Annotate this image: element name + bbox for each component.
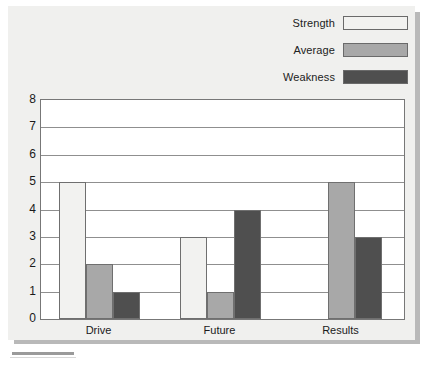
bar-future-weakness [234, 210, 261, 320]
legend-label-weakness: Weakness [283, 71, 335, 83]
x-axis-tick-label: Drive [86, 324, 112, 336]
bar-drive-average [86, 264, 113, 319]
legend-label-average: Average [294, 44, 335, 56]
chart-figure: Strength Average Weakness 012345678 Driv… [0, 0, 433, 366]
footer-rule [12, 352, 74, 355]
y-axis-tick-label: 6 [29, 147, 36, 161]
legend-item-strength: Strength [258, 14, 408, 31]
bar-future-average [207, 292, 234, 319]
gridline [41, 127, 404, 128]
legend-swatch-strength [343, 16, 408, 30]
y-axis-tick-label: 8 [29, 92, 36, 106]
legend-item-average: Average [258, 41, 408, 58]
panel-shadow-right [415, 12, 420, 342]
x-axis-tick-labels: DriveFutureResults [40, 324, 405, 342]
bar-future-strength [180, 237, 207, 319]
legend-swatch-average [343, 43, 408, 57]
bar-drive-strength [59, 182, 86, 319]
x-axis-tick-label: Future [204, 324, 236, 336]
y-axis-tick-label: 2 [29, 256, 36, 270]
bar-results-average [328, 182, 355, 319]
y-axis-tick-label: 7 [29, 119, 36, 133]
y-axis-tick-labels: 012345678 [14, 99, 36, 320]
bar-results-weakness [355, 237, 382, 319]
y-axis-tick-label: 5 [29, 174, 36, 188]
chart-legend: Strength Average Weakness [258, 14, 408, 95]
y-axis-tick-label: 3 [29, 229, 36, 243]
legend-swatch-weakness [343, 70, 408, 84]
legend-item-weakness: Weakness [258, 68, 408, 85]
y-axis-tick-label: 1 [29, 284, 36, 298]
legend-label-strength: Strength [293, 17, 335, 29]
footer-rule-secondary [10, 357, 76, 358]
x-axis-tick-label: Results [322, 324, 359, 336]
y-axis-tick-label: 0 [29, 311, 36, 325]
gridline [41, 155, 404, 156]
plot-area [40, 99, 405, 320]
y-axis-tick-label: 4 [29, 202, 36, 216]
bar-drive-weakness [113, 292, 140, 319]
